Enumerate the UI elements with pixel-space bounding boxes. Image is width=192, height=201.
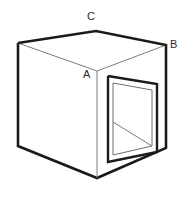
cube-figure: A B C	[0, 0, 192, 201]
vertex-label-c: C	[87, 11, 95, 22]
hole-opening-fill	[113, 83, 152, 155]
vertex-label-b: B	[170, 39, 177, 50]
vertex-label-a: A	[83, 69, 90, 80]
cube-drawing	[0, 0, 192, 201]
